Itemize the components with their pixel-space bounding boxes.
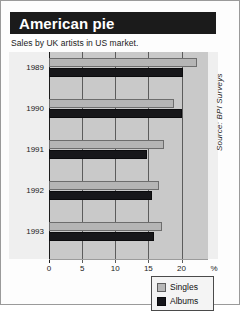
x-axis-line xyxy=(49,259,208,260)
source-note: Source: BPI Surveys xyxy=(215,73,224,151)
y-axis-label-1992: 1992 xyxy=(26,186,44,196)
page-title: American pie xyxy=(19,14,114,33)
bar-group xyxy=(49,140,208,161)
bar-singles-1993 xyxy=(49,222,162,231)
x-axis-tick-10: 10 xyxy=(111,264,120,273)
y-axis-label-1990: 1990 xyxy=(26,104,44,114)
x-axis-unit-label: % xyxy=(210,264,217,273)
x-axis-tick-20: 20 xyxy=(177,264,186,273)
bar-group xyxy=(49,181,208,202)
bar-chart: 19891990199119921993 05101520% Singles A… xyxy=(9,52,218,271)
bar-group xyxy=(49,58,208,79)
chart-subtitle: Sales by UK artists in US market. xyxy=(11,38,138,48)
legend-label-albums: Albums xyxy=(170,296,198,307)
bar-singles-1990 xyxy=(49,99,174,108)
legend-swatch-icon-albums xyxy=(157,297,166,306)
bar-albums-1993 xyxy=(49,232,154,241)
y-axis-label-1993: 1993 xyxy=(26,227,44,237)
x-axis-tick-15: 15 xyxy=(144,264,153,273)
bar-singles-1989 xyxy=(49,58,197,67)
legend-swatch-icon-singles xyxy=(157,283,166,292)
bar-singles-1991 xyxy=(49,140,164,149)
bar-albums-1990 xyxy=(49,109,182,118)
title-bar: American pie xyxy=(10,12,216,34)
legend-label-singles: Singles xyxy=(170,282,198,293)
bar-singles-1992 xyxy=(49,181,159,190)
y-axis-label-1991: 1991 xyxy=(26,145,44,155)
x-axis-tick-0: 0 xyxy=(47,264,51,273)
bar-albums-1992 xyxy=(49,191,152,200)
bar-albums-1989 xyxy=(49,68,183,77)
bar-group xyxy=(49,99,208,120)
x-axis-tick-5: 5 xyxy=(80,264,84,273)
y-axis-label-1989: 1989 xyxy=(26,63,44,73)
bar-albums-1991 xyxy=(49,150,147,159)
bar-group xyxy=(49,222,208,243)
chart-legend: Singles Albums xyxy=(151,276,214,311)
